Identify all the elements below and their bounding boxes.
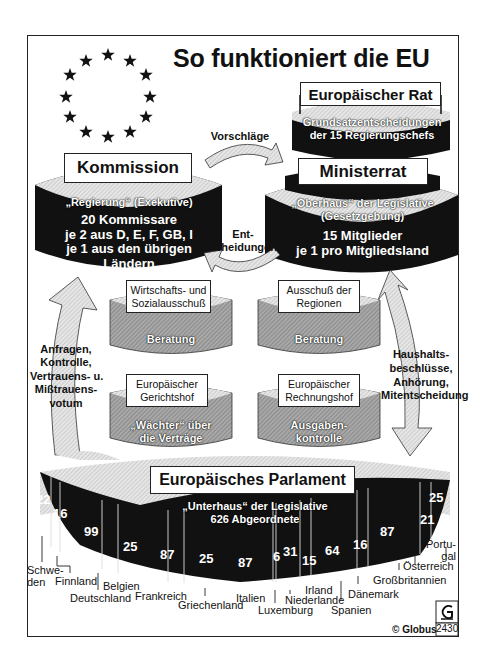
kommission-label: Kommission [64, 153, 192, 183]
left-arrow-line3: Vertrauens- u. [30, 370, 102, 383]
gerichtshof-role2: die Verträge [110, 432, 232, 445]
seat-portugal: 25 [429, 490, 443, 505]
ministerrat-line1: 15 Mitglieder [270, 229, 455, 244]
seat-grossbritannien: 87 [380, 524, 394, 539]
gerichtshof-role: „Wächter“ über die Verträge [110, 419, 232, 444]
country-portugal-2: gal [426, 550, 456, 562]
kommission-name: Kommission [77, 158, 179, 178]
right-arrow-line1: Haushalts- [381, 348, 461, 362]
seat-schweden: 22 [36, 492, 50, 507]
seat-luxemburg: 6 [273, 549, 280, 564]
seat-daenemark: 16 [353, 537, 367, 552]
adr-name2: Regionen [287, 297, 352, 309]
europaeischer-rat-name: Europäischer Rat [308, 86, 432, 103]
country-spanien: Spanien [331, 604, 371, 616]
rechnungshof-role: Ausgaben- kontrolle [258, 419, 380, 444]
country-italien: Italien [236, 592, 265, 604]
wsa-role: Beratung [110, 333, 232, 346]
left-arrow-line5: votum [30, 397, 102, 410]
right-arrow-label: Haushalts- beschlüsse, Anhörung, Mitents… [381, 348, 461, 403]
rechnungshof-role2: kontrolle [258, 432, 380, 445]
adr-name1: Ausschuß der [287, 284, 352, 296]
kommission-members: 20 Kommissare je 2 aus D, E, F, GB, I je… [40, 213, 218, 271]
parlament-total: 626 Abgeordnete [150, 513, 360, 526]
globus-number: 2430 [436, 623, 458, 634]
seat-spanien: 64 [325, 543, 339, 558]
vorschlaege-label: Vorschläge [200, 130, 280, 143]
country-deutschland: Deutschland [70, 592, 131, 604]
ministerrat-label: Ministerrat [298, 158, 428, 185]
parlament-role-text: „Unterhaus“ der Legislative [150, 500, 360, 513]
country-portugal-1: Portu- [426, 538, 456, 550]
gerichtshof-label: Europäischer Gerichtshof [126, 374, 208, 407]
right-arrow-line2: beschlüsse, [381, 362, 461, 376]
gerichtshof-name1: Europäischer [136, 378, 198, 390]
adr-role: Beratung [258, 333, 380, 346]
ministerrat-role: „Oberhaus“ der Legislative (Gesetzgebung… [270, 197, 455, 222]
right-arrow-line4: Mitentscheidung [381, 389, 461, 403]
kommission-line2: je 2 aus D, E, F, GB, I [40, 228, 218, 243]
right-arrow-line3: Anhörung, [381, 376, 461, 390]
kommission-line4: Ländern [40, 257, 218, 272]
wsa-name1: Wirtschafts- und [131, 284, 207, 296]
ministerrat-name: Ministerrat [320, 162, 407, 182]
kommission-role: „Regierung“ (Exekutive) [40, 196, 218, 209]
country-portugal: Portu- gal [426, 538, 456, 562]
rechnungshof-role1: Ausgaben- [258, 419, 380, 432]
seat-belgien: 25 [123, 539, 137, 554]
seat-deutschland: 99 [84, 524, 98, 539]
kommission-line3: je 1 aus den übrigen [40, 242, 218, 257]
europaeischer-rat-line1: Grundsatzentscheidungen [294, 116, 450, 129]
seat-finnland: 16 [53, 506, 67, 521]
seat-frankreich: 87 [160, 547, 174, 562]
country-finnland: Finnland [55, 575, 97, 587]
europaeischer-rat-line2: der 15 Regierungschefs [294, 129, 450, 142]
gerichtshof-role1: „Wächter“ über [110, 419, 232, 432]
parlament-role: „Unterhaus“ der Legislative 626 Abgeordn… [150, 500, 360, 525]
left-arrow-line2: Kontrolle, [30, 356, 102, 369]
europaeischer-rat-desc: Grundsatzentscheidungen der 15 Regierung… [294, 116, 450, 141]
country-irland: Irland [305, 584, 333, 596]
seat-oesterreich: 21 [420, 512, 434, 527]
ministerrat-role2: (Gesetzgebung) [270, 210, 455, 223]
country-grossbritannien: Großbritannien [373, 574, 446, 586]
left-arrow-line1: Anfragen, [30, 343, 102, 356]
seat-griechenland: 25 [199, 551, 213, 566]
rechnungshof-name2: Rechnungshof [285, 391, 353, 403]
left-arrow-line4: Mißtrauens- [30, 383, 102, 396]
entscheidungen-line2: scheidungen [208, 241, 278, 254]
ministerrat-line2: je 1 pro Mitgliedsland [270, 244, 455, 259]
gerichtshof-name2: Gerichtshof [136, 391, 198, 403]
country-griechenland: Griechenland [178, 599, 243, 611]
wsa-name2: Sozialausschuß [131, 297, 207, 309]
country-daenemark: Dänemark [348, 588, 399, 600]
copyright-text: © Globus [392, 624, 437, 635]
rechnungshof-name1: Europäischer [285, 378, 353, 390]
seat-italien: 87 [238, 555, 252, 570]
left-arrow-label: Anfragen, Kontrolle, Vertrauens- u. Mißt… [30, 343, 102, 410]
europaeischer-rat-label: Europäischer Rat [300, 82, 441, 106]
kommission-line1: 20 Kommissare [40, 213, 218, 228]
parlament-name: Europäisches Parlament [159, 471, 346, 489]
eu-star-circle-icon [59, 48, 156, 143]
entscheidungen-line1: Ent- [208, 228, 278, 241]
vorschlaege-arrow-icon [205, 143, 283, 168]
page-title: So funktioniert die EU [173, 44, 430, 72]
adr-label: Ausschuß der Regionen [278, 280, 360, 313]
seat-niederlande: 31 [283, 544, 297, 559]
entscheidungen-label: Ent- scheidungen [208, 228, 278, 253]
seat-irland: 15 [302, 553, 316, 568]
ministerrat-members: 15 Mitglieder je 1 pro Mitgliedsland [270, 229, 455, 258]
rechnungshof-label: Europäischer Rechnungshof [278, 374, 360, 407]
ministerrat-role1: „Oberhaus“ der Legislative [270, 197, 455, 210]
wsa-label: Wirtschafts- und Sozialausschuß [126, 280, 211, 313]
parlament-label: Europäisches Parlament [150, 466, 355, 494]
